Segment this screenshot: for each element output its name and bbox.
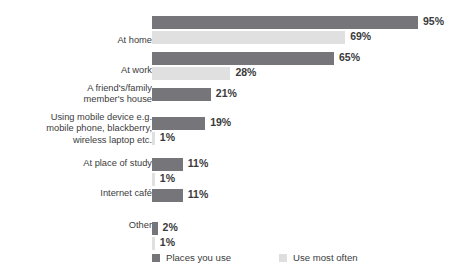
- category-label: Internet café: [2, 188, 152, 199]
- category-label: A friend's/family member's house: [2, 83, 152, 105]
- bar-places-you-use: [152, 16, 418, 29]
- legend-label: Places you use: [166, 252, 231, 263]
- bar-value-label: 2%: [163, 221, 178, 234]
- bar-places-you-use: [152, 189, 183, 202]
- bar-value-label: 1%: [160, 236, 175, 249]
- category-label: At work: [2, 65, 152, 76]
- bar-value-label: 95%: [423, 15, 444, 28]
- category-label: Using mobile device e.g. mobile phone, b…: [2, 112, 152, 146]
- bar-places-you-use: [152, 158, 183, 171]
- category-label: At home: [2, 35, 152, 46]
- bar-places-you-use: [152, 222, 158, 235]
- category-label: Other: [2, 220, 152, 231]
- legend-item-use-most-often: Use most often: [279, 252, 358, 263]
- bar-places-you-use: [152, 52, 334, 65]
- legend-item-places-you-use: Places you use: [152, 252, 231, 263]
- legend-label: Use most often: [293, 252, 358, 263]
- bar-chart: At home95%69%At work65%28%A friend's/fam…: [0, 0, 469, 280]
- bar-value-label: 11%: [188, 157, 208, 170]
- bar-value-label: 69%: [350, 30, 371, 43]
- legend-swatch-icon: [279, 254, 287, 262]
- bar-value-label: 19%: [210, 116, 231, 129]
- bar-value-label: 21%: [216, 87, 237, 100]
- bar-use-most-often: [152, 31, 345, 44]
- bar-use-most-often: [152, 67, 230, 80]
- bar-value-label: 1%: [160, 172, 175, 185]
- bar-use-most-often: [152, 237, 155, 250]
- bar-value-label: 11%: [188, 188, 208, 201]
- bar-places-you-use: [152, 117, 205, 130]
- bar-use-most-often: [152, 173, 155, 186]
- bar-value-label: 1%: [160, 131, 175, 144]
- plot-area: At home95%69%At work65%28%A friend's/fam…: [0, 0, 469, 243]
- bar-value-label: 28%: [235, 66, 256, 79]
- bar-use-most-often: [152, 132, 155, 145]
- bar-places-you-use: [152, 88, 211, 101]
- category-label: At place of study: [2, 158, 152, 169]
- legend-swatch-icon: [152, 254, 160, 262]
- bar-value-label: 65%: [339, 51, 360, 64]
- chart-legend: Places you use Use most often: [152, 252, 358, 263]
